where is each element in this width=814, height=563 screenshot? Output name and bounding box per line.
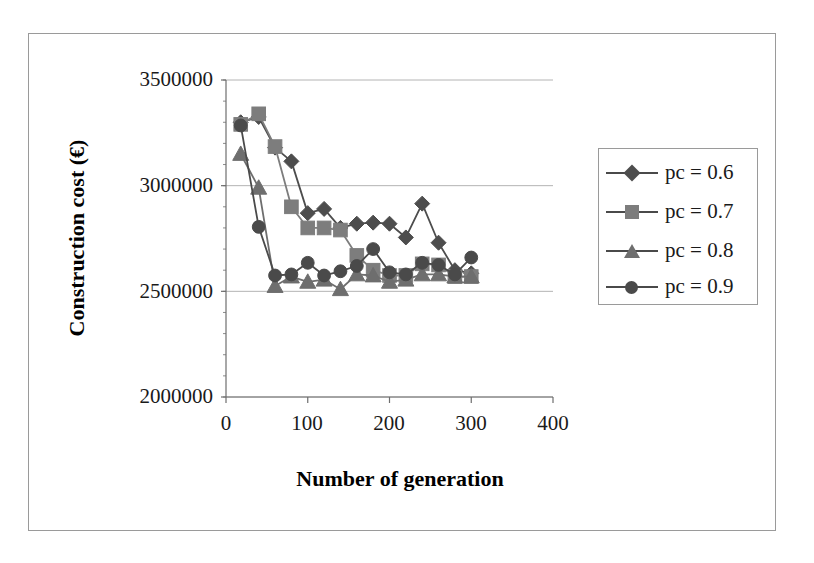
circle-marker-icon: [606, 277, 658, 297]
axis-lines: [221, 80, 553, 403]
legend-label: pc = 0.9: [665, 274, 733, 299]
legend-item-pc-0-9[interactable]: pc = 0.9: [599, 267, 759, 306]
diamond-marker-icon: [606, 163, 658, 183]
legend-item-pc-0-7[interactable]: pc = 0.7: [599, 192, 759, 231]
square-marker-icon: [606, 202, 658, 222]
legend-label: pc = 0.7: [665, 199, 733, 224]
ytick-label-2500000: 2500000: [83, 281, 213, 302]
data-series-group: [233, 107, 480, 296]
ytick-label-2000000: 2000000: [83, 386, 213, 407]
legend-item-pc-0-6[interactable]: pc = 0.6: [599, 153, 759, 192]
legend-label: pc = 0.6: [665, 160, 733, 185]
xtick-label-100: 100: [277, 413, 337, 434]
legend-item-pc-0-8[interactable]: pc = 0.8: [599, 231, 759, 270]
legend-label: pc = 0.8: [665, 238, 733, 263]
triangle-marker-icon: [606, 241, 658, 261]
grid-lines: [226, 80, 553, 397]
y-axis-title: Construction cost (€): [64, 88, 90, 388]
xtick-label-0: 0: [196, 413, 256, 434]
x-axis-title: Number of generation: [210, 466, 590, 492]
chart-legend: pc = 0.6 pc = 0.7 pc = 0.8 pc = 0.9: [598, 148, 758, 305]
xtick-label-200: 200: [359, 413, 419, 434]
xtick-label-300: 300: [441, 413, 501, 434]
xtick-label-400: 400: [523, 413, 583, 434]
ytick-label-3000000: 3000000: [83, 175, 213, 196]
ytick-label-3500000: 3500000: [83, 69, 213, 90]
chart-screenshot: 3500000 3000000 2500000 2000000 0 100 20…: [0, 0, 814, 563]
